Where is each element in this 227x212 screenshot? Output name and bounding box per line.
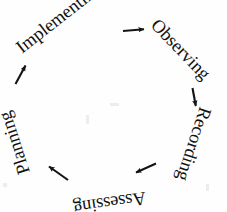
cycle-diagram: Implementing Observing Recording Assessi… [0, 0, 227, 212]
node-planning[interactable]: Planning [0, 109, 34, 177]
node-implementing-label: Implementing [12, 0, 105, 57]
node-recording-label: Recording [173, 105, 216, 184]
arrow-implementing-to-observing [123, 29, 144, 31]
node-recording[interactable]: Recording [173, 105, 216, 184]
node-implementing[interactable]: Implementing [12, 0, 105, 57]
arrow-planning-to-implementing [16, 66, 26, 85]
node-assessing[interactable]: Assessing [72, 188, 147, 212]
arrow-recording-to-assessing [136, 164, 156, 173]
arrow-assessing-to-planning [49, 167, 68, 181]
node-observing-label: Observing [147, 15, 214, 84]
arrow-observing-to-recording [193, 88, 196, 106]
node-observing[interactable]: Observing [147, 15, 214, 84]
cycle-diagram-canvas: Implementing Observing Recording Assessi… [0, 0, 227, 212]
node-planning-label: Planning [0, 109, 34, 177]
node-assessing-label: Assessing [72, 188, 147, 212]
